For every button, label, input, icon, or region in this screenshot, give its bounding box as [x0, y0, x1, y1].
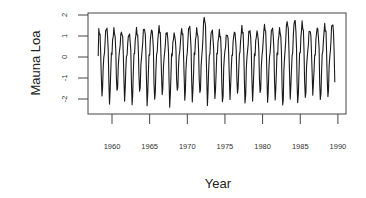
y-tick-label: 2	[60, 13, 69, 17]
series-line	[98, 17, 335, 107]
x-tick-label: 1975	[217, 142, 234, 151]
x-tick-label: 1965	[141, 142, 158, 151]
x-tick-label: 1980	[254, 142, 271, 151]
y-tick-label: -2	[60, 96, 69, 103]
x-tick-label: 1990	[330, 142, 347, 151]
y-tick-label: 1	[60, 34, 69, 38]
x-tick-label: 1985	[292, 142, 309, 151]
chart: 1960196519701975198019851990 -2-1012 Yea…	[0, 0, 366, 198]
y-axis-title: Mauna Loa	[28, 30, 43, 96]
y-axis: -2-1012	[60, 13, 88, 102]
y-tick-label: 0	[60, 55, 69, 59]
y-tick-label: -1	[60, 75, 69, 82]
x-tick-label: 1960	[104, 142, 121, 151]
x-axis-title: Year	[205, 176, 232, 191]
x-axis: 1960196519701975198019851990	[104, 114, 347, 151]
x-tick-label: 1970	[179, 142, 196, 151]
